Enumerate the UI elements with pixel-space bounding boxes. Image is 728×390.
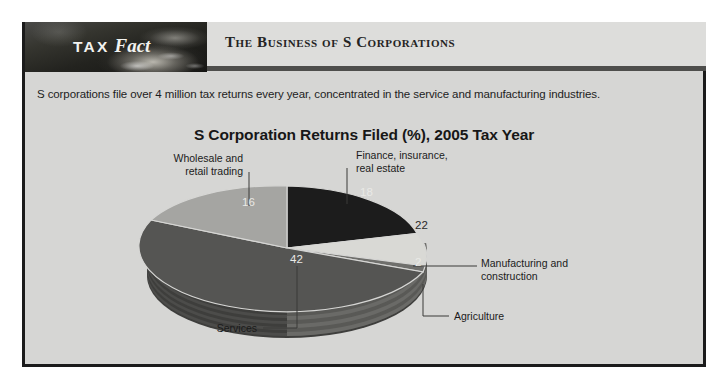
pie-label-manufacturing-line1: Manufacturing and xyxy=(481,257,568,270)
screenshot-root: TAXFact The Business of S Corporations S… xyxy=(0,0,728,390)
logo-word-fact: Fact xyxy=(114,35,150,56)
header-title-underline xyxy=(207,66,706,71)
pie-label-wholesale-line2: retail trading xyxy=(123,165,243,178)
pie-label-manufacturing-line2: construction xyxy=(481,270,568,283)
pie-label-finance-line2: real estate xyxy=(356,162,448,175)
page-title: The Business of S Corporations xyxy=(225,34,455,51)
pie-chart-svg xyxy=(25,148,703,363)
pie-value-manufacturing: 22 xyxy=(415,219,428,231)
panel-header: TAXFact The Business of S Corporations xyxy=(25,25,703,73)
pie-label-wholesale-line1: Wholesale and xyxy=(123,152,243,165)
leader-agriculture xyxy=(423,284,449,316)
pie-label-manufacturing: Manufacturing and construction xyxy=(481,257,568,282)
pie-label-finance-line1: Finance, insurance, xyxy=(356,149,448,162)
tax-fact-logo: TAXFact xyxy=(25,22,207,72)
header-title-strip: The Business of S Corporations xyxy=(207,22,706,66)
pie-value-services: 42 xyxy=(290,253,303,265)
pie-value-finance: 18 xyxy=(360,186,373,198)
pie-top-face xyxy=(139,186,427,312)
pie-label-services: Services xyxy=(175,322,257,335)
logo-text: TAXFact xyxy=(73,35,150,57)
chart-title: S Corporation Returns Filed (%), 2005 Ta… xyxy=(25,126,703,144)
pie-chart: 18 22 2 42 16 Wholesale and retail tradi… xyxy=(25,148,703,363)
tax-fact-panel: TAXFact The Business of S Corporations S… xyxy=(22,22,706,367)
panel-body: S corporations file over 4 million tax r… xyxy=(25,72,703,364)
pie-label-wholesale: Wholesale and retail trading xyxy=(123,152,243,177)
pie-value-wholesale: 16 xyxy=(242,196,255,208)
pie-label-agriculture: Agriculture xyxy=(454,310,504,323)
pie-value-agriculture: 2 xyxy=(415,256,421,268)
lede-text: S corporations file over 4 million tax r… xyxy=(37,88,600,100)
pie-label-finance: Finance, insurance, real estate xyxy=(356,149,448,174)
logo-word-tax: TAX xyxy=(73,38,109,55)
